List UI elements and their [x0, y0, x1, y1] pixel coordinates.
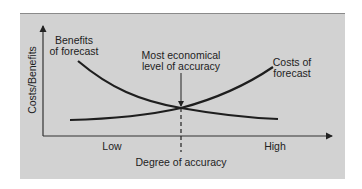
tick-high: High — [264, 140, 286, 152]
tick-low: Low — [102, 140, 122, 152]
y-axis-label: Costs/Benefits — [26, 46, 38, 114]
optimum-label-line2: level of accuracy — [142, 60, 221, 72]
cost-benefit-chart: Costs/Benefits Degree of accuracy Low Hi… — [0, 0, 362, 189]
benefits-label-line2: of forecast — [49, 45, 98, 57]
costs-curve — [70, 67, 273, 120]
costs-label-line2: forecast — [273, 67, 310, 79]
x-axis-label: Degree of accuracy — [135, 156, 227, 168]
